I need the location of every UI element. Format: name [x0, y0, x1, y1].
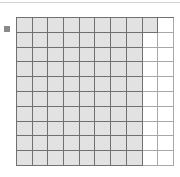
waffle-cell-filled: [111, 18, 127, 33]
waffle-cell-filled: [48, 48, 64, 63]
waffle-cell-filled: [111, 151, 127, 166]
waffle-cell-filled: [111, 62, 127, 77]
waffle-cell-filled: [64, 151, 80, 166]
waffle-cell-filled: [64, 107, 80, 122]
waffle-chart: [16, 17, 174, 166]
waffle-cell-empty: [158, 48, 174, 63]
waffle-cell-filled: [95, 18, 111, 33]
waffle-cell-filled: [111, 107, 127, 122]
waffle-cell-filled: [127, 151, 143, 166]
waffle-cell-filled: [48, 33, 64, 48]
waffle-cell-filled: [17, 151, 33, 166]
waffle-cell-filled: [17, 92, 33, 107]
waffle-cell-filled: [95, 62, 111, 77]
waffle-cell-empty: [158, 33, 174, 48]
waffle-cell-filled: [80, 18, 96, 33]
waffle-cell-empty: [143, 136, 159, 151]
waffle-cell-filled: [95, 92, 111, 107]
waffle-cell-filled: [64, 48, 80, 63]
waffle-cell-filled: [33, 77, 49, 92]
waffle-cell-filled: [17, 107, 33, 122]
waffle-cell-filled: [80, 48, 96, 63]
waffle-cell-filled: [64, 92, 80, 107]
waffle-cell-empty: [143, 107, 159, 122]
waffle-cell-empty: [143, 92, 159, 107]
waffle-cell-filled: [64, 18, 80, 33]
waffle-cell-filled: [33, 122, 49, 137]
waffle-cell-filled: [48, 92, 64, 107]
waffle-cell-filled: [80, 62, 96, 77]
waffle-cell-filled: [64, 77, 80, 92]
waffle-cell-filled: [111, 48, 127, 63]
waffle-cell-filled: [95, 107, 111, 122]
waffle-cell-filled: [95, 151, 111, 166]
waffle-cell-empty: [143, 77, 159, 92]
top-divider: [0, 2, 180, 3]
waffle-cell-filled: [64, 122, 80, 137]
waffle-cell-empty: [158, 107, 174, 122]
waffle-cell-filled: [17, 62, 33, 77]
waffle-cell-filled: [48, 62, 64, 77]
waffle-cell-filled: [127, 48, 143, 63]
waffle-cell-filled: [95, 122, 111, 137]
waffle-cell-filled: [48, 107, 64, 122]
waffle-cell-filled: [95, 48, 111, 63]
waffle-cell-filled: [17, 48, 33, 63]
waffle-cell-filled: [143, 18, 159, 33]
waffle-cell-filled: [80, 107, 96, 122]
waffle-cell-filled: [33, 136, 49, 151]
waffle-cell-filled: [33, 18, 49, 33]
waffle-cell-filled: [111, 33, 127, 48]
waffle-cell-empty: [143, 122, 159, 137]
waffle-cell-filled: [111, 122, 127, 137]
waffle-cell-filled: [127, 107, 143, 122]
waffle-cell-filled: [33, 107, 49, 122]
waffle-cell-empty: [158, 77, 174, 92]
waffle-cell-empty: [158, 151, 174, 166]
waffle-cell-empty: [143, 48, 159, 63]
waffle-cell-filled: [127, 77, 143, 92]
waffle-cell-filled: [111, 92, 127, 107]
waffle-cell-filled: [127, 33, 143, 48]
waffle-cell-filled: [127, 18, 143, 33]
waffle-cell-filled: [127, 136, 143, 151]
waffle-cell-filled: [127, 92, 143, 107]
waffle-cell-filled: [48, 18, 64, 33]
waffle-cell-filled: [64, 62, 80, 77]
waffle-cell-filled: [17, 136, 33, 151]
waffle-cell-filled: [17, 33, 33, 48]
waffle-cell-filled: [64, 33, 80, 48]
waffle-cell-filled: [80, 136, 96, 151]
waffle-cell-filled: [111, 77, 127, 92]
waffle-cell-filled: [127, 62, 143, 77]
waffle-cell-filled: [111, 136, 127, 151]
waffle-cell-filled: [33, 92, 49, 107]
waffle-cell-filled: [17, 77, 33, 92]
waffle-cell-filled: [80, 122, 96, 137]
waffle-cell-empty: [158, 18, 174, 33]
waffle-cell-filled: [17, 18, 33, 33]
waffle-cell-filled: [33, 62, 49, 77]
waffle-cell-empty: [158, 62, 174, 77]
waffle-cell-empty: [143, 151, 159, 166]
waffle-cell-filled: [33, 151, 49, 166]
waffle-cell-filled: [80, 151, 96, 166]
waffle-cell-empty: [158, 136, 174, 151]
waffle-cell-filled: [80, 92, 96, 107]
waffle-cell-filled: [80, 77, 96, 92]
waffle-cell-filled: [17, 122, 33, 137]
waffle-cell-empty: [143, 33, 159, 48]
waffle-cell-empty: [158, 122, 174, 137]
waffle-cell-filled: [95, 77, 111, 92]
waffle-cell-filled: [33, 48, 49, 63]
waffle-cell-filled: [48, 136, 64, 151]
waffle-cell-empty: [143, 62, 159, 77]
waffle-cell-filled: [33, 33, 49, 48]
waffle-cell-filled: [127, 122, 143, 137]
waffle-cell-filled: [48, 122, 64, 137]
waffle-cell-filled: [95, 33, 111, 48]
waffle-cell-empty: [158, 92, 174, 107]
waffle-cell-filled: [64, 136, 80, 151]
legend-marker: [4, 26, 10, 32]
waffle-cell-filled: [80, 33, 96, 48]
